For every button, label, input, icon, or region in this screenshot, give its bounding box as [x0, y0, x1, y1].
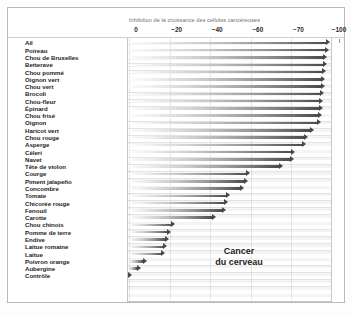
- bar: [128, 78, 322, 81]
- x-tick-major-5: [339, 39, 340, 43]
- category-label: Chou rouge: [25, 134, 59, 141]
- bar-arrowhead: [224, 199, 228, 205]
- x-axis-tick-labels: 0−20−40−60−70−100: [128, 26, 353, 36]
- bar-arrowhead: [325, 47, 329, 53]
- bar: [128, 246, 164, 249]
- axis-title: Inhibition de la croissance des cellules…: [129, 17, 351, 23]
- bar: [128, 136, 305, 139]
- bar-row: [128, 141, 331, 148]
- bar: [128, 231, 168, 234]
- bar: [128, 224, 172, 227]
- chart-header: Inhibition de la croissance des cellules…: [8, 8, 344, 38]
- category-label: Piment jalapeño: [25, 178, 72, 185]
- bar-arrowhead: [319, 98, 323, 104]
- bar: [128, 114, 319, 117]
- category-label: Chou pommé: [25, 69, 64, 76]
- bar-arrowhead: [320, 90, 324, 96]
- category-label: Épinard: [25, 105, 48, 112]
- bar-arrowhead: [291, 149, 295, 155]
- annotation-line-2: du cerveau: [184, 257, 294, 268]
- bar-arrowhead: [244, 178, 248, 184]
- bar-row: [128, 69, 331, 76]
- bar-row: [128, 170, 331, 177]
- category-label: Oignon vert: [25, 76, 59, 83]
- bar-row: [128, 105, 331, 112]
- bar-arrowhead: [240, 185, 244, 191]
- plot-area: Cancer du cerveau: [127, 38, 332, 302]
- bar-row: [128, 54, 331, 61]
- bar-arrowhead: [323, 61, 327, 67]
- bar: [128, 122, 317, 125]
- bar: [128, 64, 323, 67]
- bar-arrowhead: [128, 272, 132, 278]
- bar: [128, 173, 247, 176]
- bar-row: [128, 61, 331, 68]
- bar-arrowhead: [290, 156, 294, 162]
- bar: [128, 180, 245, 183]
- category-label: Carotte: [25, 214, 46, 221]
- bar: [128, 107, 319, 110]
- x-tick-label-1: −20: [171, 26, 182, 33]
- bar-arrowhead: [302, 141, 306, 147]
- bar-arrowhead: [167, 229, 171, 235]
- category-label: Céleri: [25, 149, 42, 156]
- bar-row: [128, 76, 331, 83]
- category-label: Ail: [25, 39, 33, 46]
- category-label: Brocoli: [25, 90, 46, 97]
- x-tick-label-2: −40: [212, 26, 223, 33]
- bar: [128, 151, 291, 154]
- bar-arrowhead: [310, 127, 314, 133]
- category-label: Chou frisé: [25, 112, 55, 119]
- category-label: Tête de violon: [25, 163, 66, 170]
- bar-row: [128, 221, 331, 228]
- bar-arrowhead: [222, 207, 226, 213]
- bar: [128, 49, 325, 52]
- bar: [128, 158, 290, 161]
- category-label: Laitue: [25, 251, 43, 258]
- category-label: Aubergine: [25, 265, 55, 272]
- bar: [128, 195, 227, 198]
- bar: [128, 100, 320, 103]
- bar-arrowhead: [317, 119, 321, 125]
- bar: [128, 85, 321, 88]
- category-label: Poivron orange: [25, 258, 70, 265]
- category-label: Endive: [25, 236, 45, 243]
- bar-row: [128, 149, 331, 156]
- bar: [128, 93, 321, 96]
- bar: [128, 260, 143, 263]
- bar-arrowhead: [165, 236, 169, 242]
- bar-row: [128, 156, 331, 163]
- bar-arrowhead: [163, 243, 167, 249]
- bar: [128, 42, 327, 45]
- bar-arrowhead: [326, 39, 330, 45]
- chart-figure: Inhibition de la croissance des cellules…: [0, 0, 353, 317]
- bar: [128, 129, 310, 132]
- bar-arrowhead: [321, 76, 325, 82]
- category-label: Chou vert: [25, 83, 53, 90]
- category-label: Chicorée rouge: [25, 200, 70, 207]
- bar-row: [128, 90, 331, 97]
- bar-row: [128, 163, 331, 170]
- bar-arrowhead: [322, 68, 326, 74]
- bar-arrowhead: [304, 134, 308, 140]
- bar: [128, 187, 241, 190]
- bar-row: [128, 112, 331, 119]
- bar: [128, 56, 324, 59]
- bar-row: [128, 200, 331, 207]
- bar: [128, 238, 166, 241]
- bar-row: [128, 192, 331, 199]
- category-label: Haricot vert: [25, 127, 59, 134]
- bar: [128, 165, 279, 168]
- bar-arrowhead: [279, 163, 283, 169]
- bar-arrowhead: [319, 105, 323, 111]
- bar-row: [128, 47, 331, 54]
- bar-row: [128, 83, 331, 90]
- bar: [128, 144, 302, 147]
- x-tick-label-5: −100: [332, 26, 346, 33]
- bar: [128, 253, 162, 256]
- x-tick-label-0: 0: [134, 26, 138, 33]
- category-label: Laitue romaine: [25, 243, 68, 250]
- bar-arrowhead: [323, 54, 327, 60]
- bar-row: [128, 272, 331, 279]
- category-label: Tomate: [25, 192, 46, 199]
